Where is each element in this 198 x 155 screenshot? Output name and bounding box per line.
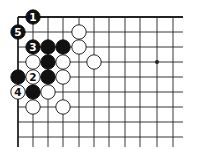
white-stone — [56, 100, 70, 114]
white-stone — [26, 55, 40, 69]
black-stone — [11, 70, 25, 84]
black-stone — [41, 40, 55, 54]
black-stone — [41, 55, 55, 69]
move-number-label: 5 — [14, 26, 21, 38]
white-stone — [56, 70, 70, 84]
black-stone — [56, 40, 70, 54]
black-stone — [26, 85, 40, 99]
move-number-label: 2 — [29, 71, 36, 83]
white-stone — [56, 55, 70, 69]
black-stone: 5 — [11, 25, 25, 39]
star-points — [155, 60, 159, 64]
move-number-label: 4 — [14, 86, 21, 98]
move-number-label: 1 — [29, 11, 36, 23]
white-stone — [87, 55, 101, 69]
white-stone — [26, 100, 40, 114]
move-number-label: 3 — [29, 41, 36, 53]
white-stone — [72, 25, 86, 39]
black-stone: 3 — [26, 40, 40, 54]
star-point — [155, 60, 159, 64]
go-board: 15324 — [0, 0, 198, 155]
white-stone — [41, 85, 55, 99]
black-stone: 1 — [26, 10, 40, 24]
white-stone — [72, 40, 86, 54]
white-stone: 2 — [26, 70, 40, 84]
white-stone: 4 — [11, 85, 25, 99]
black-stone — [41, 70, 55, 84]
